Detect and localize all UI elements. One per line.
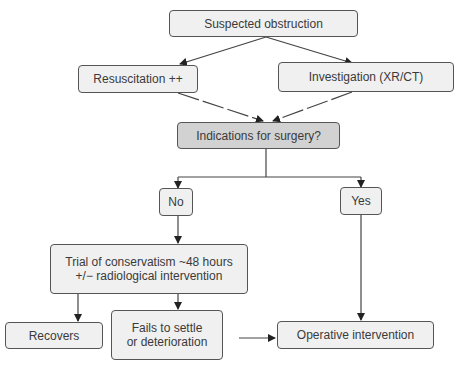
node-investigation: Investigation (XR/CT) [278, 62, 454, 92]
node-fails-to-settle: Fails to settle or deterioration [111, 310, 223, 360]
node-suspected-obstruction: Suspected obstruction [169, 10, 358, 37]
node-operative-intervention: Operative intervention [277, 321, 434, 349]
connectors [0, 0, 463, 372]
node-trial-of-conservatism: Trial of conservatism ~48 hours +/− radi… [50, 244, 248, 294]
node-yes: Yes [340, 187, 382, 215]
arrow-suspected-to-investigation [266, 37, 352, 63]
node-no: No [159, 188, 193, 216]
arrow-suspected-to-resuscitation [180, 37, 266, 64]
arrow-resuscitation-to-indications [178, 93, 263, 121]
node-resuscitation: Resuscitation ++ [78, 65, 198, 93]
arrow-investigation-to-indications [273, 92, 352, 121]
node-recovers: Recovers [5, 322, 103, 349]
node-indications-for-surgery: Indications for surgery? [177, 122, 340, 149]
